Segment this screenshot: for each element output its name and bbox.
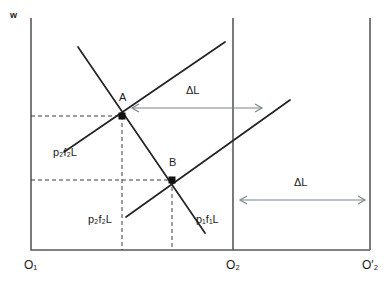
point-label-a: A xyxy=(119,92,126,103)
diagram-canvas xyxy=(0,0,389,286)
labor-market-diagram: w A B p₂f₂L p₂f₂L p₁f₁L ΔL ΔL O₁ O₂ O′₂ xyxy=(0,0,389,286)
delta-l-lower-label: ΔL xyxy=(294,177,307,188)
delta-l-lower-arrow xyxy=(240,196,365,204)
curve-label-p2f2L-lower: p₂f₂L xyxy=(88,214,112,225)
curve-label-p1f1L: p₁f₁L xyxy=(196,214,219,225)
curve-p2f2L-upper xyxy=(64,42,225,152)
origin-label-o2-prime: O′₂ xyxy=(362,259,378,271)
delta-l-upper-arrow xyxy=(132,104,262,112)
axis-label-w: w xyxy=(10,11,17,20)
origin-label-o1: O₁ xyxy=(24,259,37,271)
point-label-b: B xyxy=(169,157,176,168)
curve-label-p2f2L-upper: p₂f₂L xyxy=(53,147,77,158)
point-marker-b xyxy=(169,177,176,184)
origin-label-o2: O₂ xyxy=(226,259,240,271)
point-marker-a xyxy=(119,113,126,120)
delta-l-upper-label: ΔL xyxy=(186,85,199,96)
